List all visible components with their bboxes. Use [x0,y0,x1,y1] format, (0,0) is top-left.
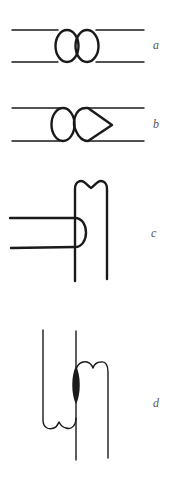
figure-a: a [12,30,159,62]
figure-b-label: b [153,117,159,131]
figure-d-spindle [72,366,80,404]
figure-b: b [12,108,159,141]
figure-c-label: c [151,226,157,240]
figure-d: d [43,330,160,460]
figure-d-right-loop [76,362,108,458]
figure-c-vertical-loop [75,181,107,281]
figure-a-label: a [153,38,159,52]
figure-b-ellipse-loop [52,108,75,141]
figure-d-label: d [153,396,160,410]
figure-d-left-loop [43,330,76,429]
diagram-canvas: a b c d [0,0,173,483]
figure-b-teardrop-loop [74,108,112,141]
figure-c: c [10,181,157,281]
